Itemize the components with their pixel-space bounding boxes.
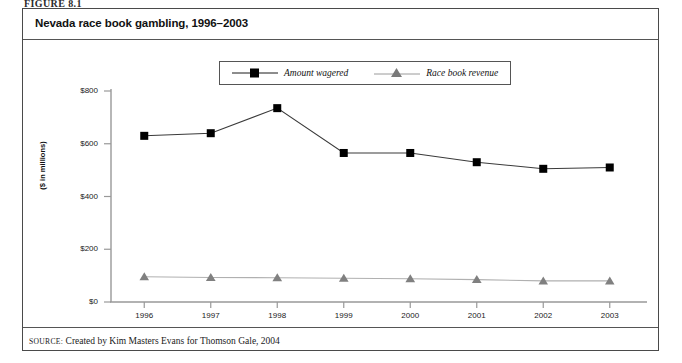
source-note: SOURCE: Created by Kim Masters Evans for… [29,336,280,346]
data-point [140,132,148,140]
data-point [473,158,481,166]
data-point [340,149,348,157]
data-point [273,104,281,112]
x-tick-1996: 1996 [120,311,168,320]
legend-label-race-book-revenue: Race book revenue [426,68,498,78]
data-point [606,163,614,171]
y-tick-600: $600 [40,139,98,148]
x-tick-1998: 1998 [253,311,301,320]
legend-label-amount-wagered: Amount wagered [284,68,348,78]
legend-item-race-book-revenue: Race book revenue [374,67,498,79]
legend-square-marker-icon [232,67,278,79]
x-tick-1999: 1999 [320,311,368,320]
figure-box: Nevada race book gambling, 1996–2003 ($ … [22,8,659,351]
chart-legend: Amount wagered Race book revenue [219,61,511,85]
x-tick-2003: 2003 [586,311,634,320]
x-tick-2002: 2002 [519,311,567,320]
x-tick-1997: 1997 [187,311,235,320]
chart-svg [23,9,660,329]
source-divider [23,327,658,328]
y-tick-800: $800 [40,86,98,95]
data-point [207,129,215,137]
legend-item-amount-wagered: Amount wagered [232,67,348,79]
series-race-book-revenue [140,272,615,284]
x-tick-2001: 2001 [453,311,501,320]
legend-triangle-marker-icon [374,67,420,79]
series-amount-wagered [140,104,614,173]
data-point [406,149,414,157]
y-tick-0: $0 [40,297,98,306]
source-keyword: SOURCE: [29,337,63,346]
data-point [539,165,547,173]
source-text: Created by Kim Masters Evans for Thomson… [66,336,280,346]
y-tick-400: $400 [40,192,98,201]
y-tick-200: $200 [40,244,98,253]
x-tick-2000: 2000 [386,311,434,320]
